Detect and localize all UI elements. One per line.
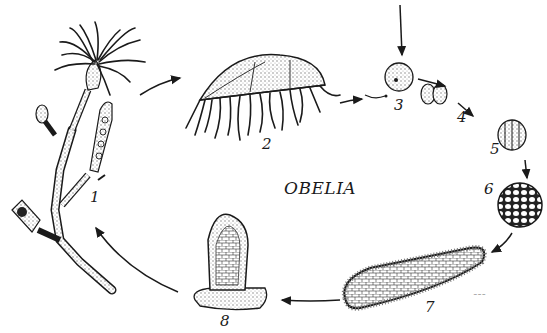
arrow-5-to-6 — [525, 160, 527, 178]
arrow-7-to-8 — [282, 300, 340, 301]
stage-8-young-polyp — [194, 214, 267, 309]
stage-1-polyp-colony — [12, 22, 145, 290]
artist-signature: ~~~ — [473, 291, 486, 297]
label-3: 3 — [394, 96, 404, 114]
label-7: 7 — [425, 298, 435, 316]
label-5: 5 — [490, 140, 500, 158]
stage-7-planula — [344, 248, 484, 309]
arrow-1-to-2 — [140, 78, 180, 95]
stage-5-four-cell — [498, 120, 526, 150]
label-8: 8 — [220, 312, 230, 330]
arrow-sperm-in — [400, 5, 402, 55]
stage-6-blastula — [498, 183, 542, 227]
obelia-life-cycle-diagram: ~~~ — [0, 0, 547, 333]
stage-4-two-cell — [421, 84, 447, 104]
stage-2-medusa — [186, 55, 340, 140]
stage-3-egg — [365, 63, 413, 98]
label-1: 1 — [90, 188, 100, 206]
arrow-2-to-3 — [340, 99, 362, 103]
label-4: 4 — [457, 108, 467, 126]
label-6: 6 — [484, 180, 494, 198]
arrow-6-to-7 — [492, 233, 512, 252]
label-2: 2 — [262, 135, 272, 153]
diagram-title: OBELIA — [284, 178, 356, 198]
